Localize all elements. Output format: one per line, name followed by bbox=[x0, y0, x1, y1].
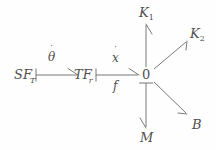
bond-j0-m bbox=[139, 83, 153, 128]
bond-tf-j0 bbox=[96, 69, 139, 82]
node-m-label: M bbox=[140, 130, 153, 145]
bond-j0-k1 bbox=[146, 24, 152, 67]
node-b: B bbox=[192, 118, 202, 131]
node-m: M bbox=[140, 131, 153, 144]
node-tf-subscript: r bbox=[89, 76, 93, 85]
bond-label-f: f bbox=[113, 80, 117, 92]
bond-label-f-text: f bbox=[113, 79, 117, 93]
junction-zero-label: 0 bbox=[142, 67, 150, 82]
bond-label-xdot: ˙x bbox=[112, 52, 119, 64]
node-b-label: B bbox=[192, 117, 202, 132]
node-k2-label: K bbox=[190, 26, 200, 41]
dot-accent-x: ˙ bbox=[113, 46, 118, 55]
node-k2: K2 bbox=[190, 27, 205, 40]
bond-j0-k2 bbox=[154, 41, 187, 69]
node-k2-subscript: 2 bbox=[200, 34, 205, 43]
node-sf: SFT bbox=[14, 68, 37, 81]
node-tf: TFr bbox=[74, 68, 96, 81]
dot-accent-theta: ˙ bbox=[49, 45, 54, 54]
node-k1: K1 bbox=[139, 6, 154, 19]
bond-label-theta-dot: ˙θ bbox=[48, 51, 55, 63]
node-sf-subscript: T bbox=[30, 76, 35, 85]
node-k1-subscript: 1 bbox=[149, 13, 154, 22]
bond-graph-diagram: SFT TFr 0 ˙θ ˙x f K1 K2 B M bbox=[0, 0, 216, 150]
bond-sf-tf bbox=[36, 69, 78, 82]
junction-zero: 0 bbox=[142, 68, 150, 81]
bond-j0-b bbox=[154, 82, 187, 114]
node-k1-label: K bbox=[139, 5, 149, 20]
